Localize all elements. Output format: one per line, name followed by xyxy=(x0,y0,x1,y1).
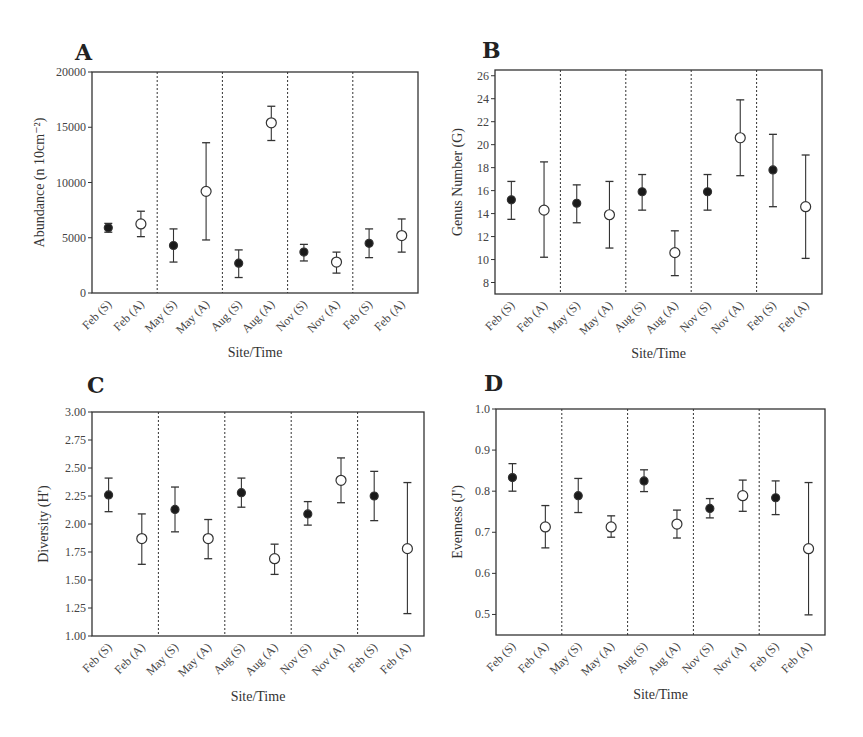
x-tick-label: Feb (S) xyxy=(340,297,375,332)
data-point xyxy=(540,506,550,548)
y-tick-label: 2.25 xyxy=(65,489,86,503)
data-point xyxy=(136,211,146,236)
y-tick-label: 20 xyxy=(477,138,489,152)
x-tick-label: Nov (S) xyxy=(677,298,714,335)
data-point xyxy=(370,471,378,520)
data-point xyxy=(604,181,614,248)
y-tick-label: 12 xyxy=(477,230,489,244)
data-point xyxy=(539,162,549,257)
y-tick-label: 24 xyxy=(477,92,489,106)
data-point xyxy=(507,181,515,219)
x-tick-label: Feb (S) xyxy=(79,297,114,332)
x-tick-label: Feb (A) xyxy=(377,640,414,677)
x-tick-label: May (A) xyxy=(175,640,214,679)
y-tick-label: 0.6 xyxy=(475,566,490,580)
open-circle-marker-icon xyxy=(336,475,346,485)
x-tick-label: May (S) xyxy=(546,639,584,677)
data-point xyxy=(706,499,714,518)
data-point xyxy=(300,244,308,261)
x-tick-label: Aug (S) xyxy=(211,640,248,677)
filled-circle-marker-icon xyxy=(769,166,777,174)
data-point xyxy=(606,516,616,537)
x-axis-title: Site/Time xyxy=(633,687,688,702)
y-tick-label: 2.50 xyxy=(65,461,86,475)
open-circle-marker-icon xyxy=(804,544,814,554)
x-tick-label: Aug (A) xyxy=(242,640,280,678)
data-point xyxy=(170,229,178,262)
data-point xyxy=(332,252,342,273)
open-circle-marker-icon xyxy=(735,133,745,143)
x-tick-label: Feb (S) xyxy=(80,640,115,675)
open-circle-marker-icon xyxy=(203,534,213,544)
open-circle-marker-icon xyxy=(201,186,211,196)
data-point xyxy=(402,483,412,614)
x-tick-label: Nov (S) xyxy=(679,639,716,676)
x-tick-label: Aug (S) xyxy=(613,639,650,676)
x-tick-label: May (S) xyxy=(545,298,583,336)
y-tick-label: 5000 xyxy=(62,231,86,245)
data-point xyxy=(201,143,211,240)
x-tick-label: Feb (S) xyxy=(747,639,782,674)
y-tick-label: 26 xyxy=(477,69,489,83)
data-point xyxy=(266,106,276,140)
data-point xyxy=(573,185,581,223)
open-circle-marker-icon xyxy=(266,118,276,128)
x-tick-label: Feb (A) xyxy=(778,639,815,676)
data-point xyxy=(772,481,780,515)
x-axis-title: Site/Time xyxy=(231,689,286,704)
y-tick-label: 0 xyxy=(80,286,86,300)
data-point xyxy=(304,502,312,526)
x-tick-label: Feb (S) xyxy=(483,639,518,674)
filled-circle-marker-icon xyxy=(365,239,373,247)
x-axis-title: Site/Time xyxy=(631,346,686,361)
x-tick-label: Nov (A) xyxy=(309,640,347,678)
filled-circle-marker-icon xyxy=(237,489,245,497)
filled-circle-marker-icon xyxy=(772,494,780,502)
x-tick-label: Aug (S) xyxy=(611,298,648,335)
data-point xyxy=(574,478,582,512)
filled-circle-marker-icon xyxy=(507,196,515,204)
data-point xyxy=(203,520,213,559)
open-circle-marker-icon xyxy=(402,544,412,554)
y-axis-title: Diversity (H') xyxy=(36,485,52,563)
x-tick-label: Feb (A) xyxy=(514,298,551,335)
data-point xyxy=(672,510,682,538)
filled-circle-marker-icon xyxy=(104,224,112,232)
y-axis-title: Abundance (n 10cm⁻²) xyxy=(32,117,48,247)
x-tick-label: Nov (S) xyxy=(277,640,314,677)
filled-circle-marker-icon xyxy=(574,492,582,500)
y-tick-label: 2.00 xyxy=(65,517,86,531)
filled-circle-marker-icon xyxy=(171,505,179,513)
data-point xyxy=(137,514,147,564)
y-tick-label: 15000 xyxy=(56,120,86,134)
filled-circle-marker-icon xyxy=(370,492,378,500)
x-tick-label: May (S) xyxy=(143,640,181,678)
data-point xyxy=(704,175,712,211)
filled-circle-marker-icon xyxy=(235,259,243,267)
x-tick-label: Feb (S) xyxy=(482,298,517,333)
y-tick-label: 10 xyxy=(477,253,489,267)
y-tick-label: 0.5 xyxy=(475,607,490,621)
data-point xyxy=(769,134,777,206)
filled-circle-marker-icon xyxy=(304,510,312,518)
x-tick-label: Nov (A) xyxy=(708,298,746,336)
plot-frame xyxy=(92,72,418,293)
open-circle-marker-icon xyxy=(801,202,811,212)
x-tick-label: Aug (A) xyxy=(645,639,683,677)
open-circle-marker-icon xyxy=(397,231,407,241)
data-point xyxy=(804,483,814,615)
open-circle-marker-icon xyxy=(540,522,550,532)
y-tick-label: 1.75 xyxy=(65,545,86,559)
x-tick-label: Nov (A) xyxy=(304,297,342,335)
panel-c: C1.001.251.501.752.002.252.502.753.00Div… xyxy=(36,372,424,704)
open-circle-marker-icon xyxy=(136,219,146,229)
data-point xyxy=(670,231,680,276)
filled-circle-marker-icon xyxy=(508,474,516,482)
open-circle-marker-icon xyxy=(604,210,614,220)
x-tick-label: Feb (S) xyxy=(744,298,779,333)
open-circle-marker-icon xyxy=(672,519,682,529)
y-tick-label: 2.75 xyxy=(65,433,86,447)
open-circle-marker-icon xyxy=(137,534,147,544)
y-tick-label: 20000 xyxy=(56,65,86,79)
data-point xyxy=(738,480,748,511)
